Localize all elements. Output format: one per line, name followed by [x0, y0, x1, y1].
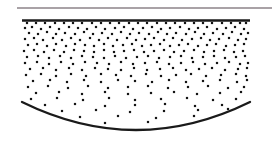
particle-dot [173, 51, 175, 53]
particle-dot [168, 79, 170, 81]
particle-dot [153, 50, 155, 52]
particle-dot [87, 85, 89, 87]
particle-dot [155, 117, 157, 119]
particle-dot [135, 39, 137, 41]
particle-dot [114, 27, 116, 29]
particle-dot [94, 67, 96, 69]
particle-dot [147, 55, 149, 57]
particle-dot [235, 73, 237, 75]
particle-dot [112, 45, 114, 47]
particle-dot [43, 51, 45, 53]
particle-dot [129, 111, 131, 113]
particle-dot [47, 85, 49, 87]
particle-dot [132, 28, 134, 30]
particle-dot [103, 49, 105, 51]
particle-dot [32, 80, 34, 82]
particle-dot [104, 105, 106, 107]
particle-dot [74, 103, 76, 105]
particle-dot [48, 63, 50, 65]
particle-dot [84, 44, 86, 46]
particle-dot [109, 22, 111, 24]
particle-dot [55, 75, 57, 77]
particle-dot [168, 63, 170, 65]
particle-dot [202, 80, 204, 82]
particle-dot [127, 93, 129, 95]
particle-dot [185, 33, 187, 35]
particle-dot [234, 44, 236, 46]
particle-dot [196, 93, 198, 95]
particle-dot [235, 56, 237, 58]
particle-dot [126, 37, 128, 39]
particle-dot [148, 33, 150, 35]
particle-dot [186, 97, 188, 99]
particle-dot [224, 57, 226, 59]
particle-dot [58, 91, 60, 93]
particle-dot [54, 22, 56, 24]
figure-background [0, 0, 279, 155]
particle-dot [233, 51, 235, 53]
particle-dot [200, 37, 202, 39]
particle-dot [237, 68, 239, 70]
particle-dot [35, 22, 37, 24]
particle-dot [25, 74, 27, 76]
particle-dot [246, 67, 248, 69]
particle-dot [178, 44, 180, 46]
particle-dot [107, 37, 109, 39]
particle-dot [150, 44, 152, 46]
particle-dot [221, 104, 223, 106]
particle-dot [202, 22, 204, 24]
particle-dot [56, 97, 58, 99]
particle-dot [113, 51, 115, 53]
particle-dot [181, 39, 183, 41]
particle-dot [216, 28, 218, 30]
particle-dot [180, 55, 182, 57]
particle-dot [31, 26, 33, 28]
particle-dot [156, 22, 158, 24]
particle-dot [227, 108, 229, 110]
particle-dot [236, 81, 238, 83]
particle-dot [127, 86, 129, 88]
particle-dot [120, 69, 122, 71]
particle-dot [225, 45, 227, 47]
particle-dot [132, 63, 134, 65]
particle-dot [82, 99, 84, 101]
particle-dot [118, 22, 120, 24]
particle-dot [163, 110, 165, 112]
particle-dot [147, 121, 149, 123]
particle-dot [92, 33, 94, 35]
particle-dot [100, 81, 102, 83]
particle-dot [194, 105, 196, 107]
particle-dot [231, 31, 233, 33]
particle-dot [190, 73, 192, 75]
particle-dot [122, 44, 124, 46]
particle-dot [104, 122, 106, 124]
particle-dot [68, 26, 70, 28]
particle-dot [33, 49, 35, 51]
particle-dot [53, 49, 55, 51]
particle-dot [81, 55, 83, 57]
particle-dot [37, 55, 39, 57]
particle-dot [55, 43, 57, 45]
particle-dot [150, 92, 152, 94]
particle-dot [184, 22, 186, 24]
particle-dot [138, 32, 140, 34]
particle-dot [85, 75, 87, 77]
particle-dot [227, 87, 229, 89]
particle-dot [93, 51, 95, 53]
particle-dot [74, 43, 76, 45]
particle-dot [212, 32, 214, 34]
particle-dot [24, 62, 26, 64]
particle-dot [107, 87, 109, 89]
particle-dot [187, 86, 189, 88]
particle-dot [198, 68, 200, 70]
particle-dot [30, 98, 32, 100]
particle-dot [72, 63, 74, 65]
particle-diagram-svg [0, 0, 279, 155]
particle-dot [134, 104, 136, 106]
particle-dot [221, 22, 223, 24]
particle-dot [92, 56, 94, 58]
particle-dot [243, 86, 245, 88]
particle-dot [247, 32, 249, 34]
particle-dot [83, 50, 85, 52]
particle-dot [160, 28, 162, 30]
